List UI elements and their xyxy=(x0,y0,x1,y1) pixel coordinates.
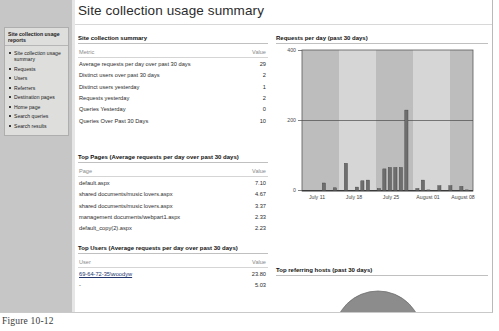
quick-launch-sidebar: Site collection usage reports Site colle… xyxy=(4,27,69,136)
chart-y-ticks xyxy=(298,51,302,191)
table-header-row: Page Value xyxy=(78,165,268,177)
main-content: Site collection summary Metric Value Ave… xyxy=(78,27,490,312)
sidebar-item-label: Referrers xyxy=(14,85,35,91)
y-axis-tick-200: 200 xyxy=(276,117,296,123)
cell-page: management documents/webpart1.aspx xyxy=(78,211,235,222)
cell-metric: Distinct users yesterday xyxy=(78,81,235,92)
cell-metric: Requests yesterday xyxy=(78,92,235,103)
webpart-top-users: Top Users (Average requests per day over… xyxy=(78,245,268,291)
table-header-row: Metric Value xyxy=(78,46,268,58)
cell-value: 10 xyxy=(235,115,268,126)
column-header-metric: Metric xyxy=(78,46,235,58)
top-pages-table: Page Value default.aspx 7.10 shared docu… xyxy=(78,165,268,234)
page-gutter-divider xyxy=(72,0,75,312)
sharepoint-screenshot: Site collection usage summary Site colle… xyxy=(0,0,493,313)
sidebar-item-site-collection-usage-summary[interactable]: Site collection usage summary xyxy=(5,48,68,64)
table-header-row: User Value xyxy=(78,256,268,268)
table-row: shared documents/music lovers.aspx 3.37 xyxy=(78,200,268,211)
webpart-title: Top Pages (Average requests per day over… xyxy=(78,154,268,163)
sidebar-nav-list: Site collection usage summary Requests U… xyxy=(5,46,68,134)
sidebar-item-label: Destination pages xyxy=(14,94,55,100)
cell-value: 5.03 xyxy=(235,280,268,291)
webpart-title: Top Users (Average requests per day over… xyxy=(78,245,268,254)
cell-page: shared documents/music lovers.aspx xyxy=(78,200,235,211)
webpart-title: Site collection summary xyxy=(78,35,268,44)
cell-value: 2.33 xyxy=(235,211,268,222)
summary-table: Metric Value Average requests per day ov… xyxy=(78,46,268,126)
table-row: default_copy(2).aspx 2.23 xyxy=(78,223,268,234)
table-row: Queries Over Past 30 Days 10 xyxy=(78,115,268,126)
table-row: - 5.03 xyxy=(78,280,268,291)
requests-bar-chart: 400 200 0 July 11 July 18 July 25 August… xyxy=(276,46,488,208)
cell-page: default.aspx xyxy=(78,177,235,189)
x-axis-tick-july-25: July 25 xyxy=(372,194,410,200)
cell-value: 29 xyxy=(235,58,268,70)
cell-page: default_copy(2).aspx xyxy=(78,223,235,234)
webpart-top-pages: Top Pages (Average requests per day over… xyxy=(78,154,268,234)
figure-scan: Site collection usage summary Site colle… xyxy=(0,0,499,331)
x-axis-tick-august-08: August 08 xyxy=(444,194,482,200)
webpart-title: Requests per day (past 30 days) xyxy=(276,35,488,44)
x-axis-tick-july-18: July 18 xyxy=(335,194,373,200)
table-row: Distinct users yesterday 1 xyxy=(78,81,268,92)
cell-value: 2 xyxy=(235,70,268,81)
table-row: shared documents/music lovers.aspx 4.67 xyxy=(78,189,268,200)
cell-metric: Distinct users over past 30 days xyxy=(78,70,235,81)
cell-value: 1 xyxy=(235,81,268,92)
cell-value: 7.10 xyxy=(235,177,268,189)
user-link[interactable]: 69-64-72-35\woodyw xyxy=(79,271,132,277)
column-header-value: Value xyxy=(235,165,268,177)
table-row: Requests yesterday 2 xyxy=(78,92,268,103)
webpart-site-collection-summary: Site collection summary Metric Value Ave… xyxy=(78,35,268,126)
figure-caption: Figure 10-12 xyxy=(2,316,54,326)
table-row: default.aspx 7.10 xyxy=(78,177,268,189)
pie-slice-main xyxy=(334,291,422,313)
sidebar-item-label: Users xyxy=(14,75,27,81)
sidebar-item-referrers[interactable]: Referrers xyxy=(5,83,68,92)
sidebar-header: Site collection usage reports xyxy=(5,28,68,46)
x-axis-tick-july-11: July 11 xyxy=(298,194,336,200)
sidebar-item-label: Home page xyxy=(14,104,40,110)
top-users-table: User Value 69-64-72-35\woodyw 23.80 - xyxy=(78,256,268,291)
table-row: Average requests per day over past 30 da… xyxy=(78,58,268,70)
column-header-value: Value xyxy=(235,46,268,58)
sidebar-item-requests[interactable]: Requests xyxy=(5,64,68,73)
cell-value: 0 xyxy=(235,104,268,115)
cell-user: - xyxy=(78,280,235,291)
table-row: Queries Yesterday 0 xyxy=(78,104,268,115)
sidebar-item-users[interactable]: Users xyxy=(5,74,68,83)
webpart-requests-per-day: Requests per day (past 30 days) xyxy=(276,35,488,44)
x-axis-tick-august-01: August 01 xyxy=(409,194,447,200)
sidebar-item-search-results[interactable]: Search results xyxy=(5,121,68,130)
cell-value: 2 xyxy=(235,92,268,103)
sidebar-item-label: Site collection usage summary xyxy=(14,50,61,62)
sidebar-item-label: Search queries xyxy=(14,113,48,119)
column-header-value: Value xyxy=(235,256,268,268)
cell-user: 69-64-72-35\woodyw xyxy=(78,268,235,280)
sidebar-item-label: Requests xyxy=(14,66,36,72)
requests-bar-chart-svg xyxy=(276,46,488,208)
cell-value: 2.23 xyxy=(235,223,268,234)
column-header-user: User xyxy=(78,256,235,268)
sidebar-item-destination-pages[interactable]: Destination pages xyxy=(5,93,68,102)
cell-metric: Queries Over Past 30 Days xyxy=(78,115,235,126)
referring-hosts-pie-svg xyxy=(276,279,488,313)
table-row: management documents/webpart1.aspx 2.33 xyxy=(78,211,268,222)
y-axis-tick-400: 400 xyxy=(276,47,296,53)
cell-page: shared documents/music lovers.aspx xyxy=(78,189,235,200)
cell-value: 4.67 xyxy=(235,189,268,200)
webpart-title: Top referring hosts (past 30 days) xyxy=(276,267,488,276)
table-row: Distinct users over past 30 days 2 xyxy=(78,70,268,81)
webpart-top-referring-hosts: Top referring hosts (past 30 days) 0 0 xyxy=(276,267,488,276)
cell-value: 3.37 xyxy=(235,200,268,211)
sidebar-item-label: Search results xyxy=(14,123,47,129)
y-axis-tick-0: 0 xyxy=(276,187,296,193)
cell-value: 23.80 xyxy=(235,268,268,280)
sidebar-item-search-queries[interactable]: Search queries xyxy=(5,112,68,121)
column-header-page: Page xyxy=(78,165,235,177)
cell-metric: Queries Yesterday xyxy=(78,104,235,115)
page-title: Site collection usage summary xyxy=(78,3,264,18)
sidebar-item-home-page[interactable]: Home page xyxy=(5,102,68,111)
cell-metric: Average requests per day over past 30 da… xyxy=(78,58,235,70)
referring-hosts-pie-chart: 0 0 xyxy=(276,279,488,313)
